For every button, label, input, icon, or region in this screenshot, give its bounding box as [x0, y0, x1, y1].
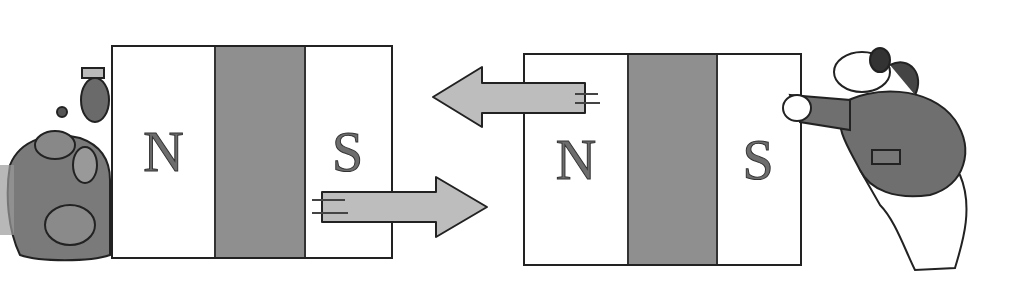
arrow-right-icon: [312, 177, 487, 237]
bear-illustration: [783, 48, 966, 270]
magnets-illustration: N S N S: [0, 0, 1028, 296]
arrows-and-bear-layer: [0, 0, 1028, 296]
arrow-left-icon: [433, 67, 600, 127]
